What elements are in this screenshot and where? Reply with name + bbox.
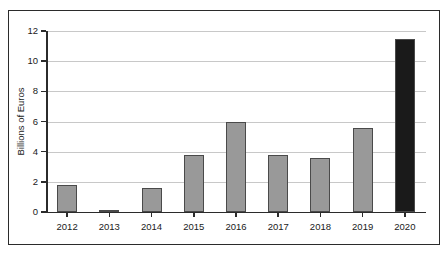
gridline — [46, 61, 426, 62]
x-tick-mark — [109, 212, 111, 217]
x-tick-mark — [235, 212, 237, 217]
x-tick-mark — [151, 212, 153, 217]
x-tick-label-2020: 2020 — [384, 221, 426, 232]
bar-chart-figure: 024681012 201220132014201520162017201820… — [0, 0, 448, 255]
y-tick-mark — [41, 211, 46, 213]
x-tick-label-2016: 2016 — [215, 221, 257, 232]
x-tick-label-2019: 2019 — [342, 221, 384, 232]
y-tick-mark — [41, 60, 46, 62]
x-tick-mark — [362, 212, 364, 217]
x-tick-mark — [66, 212, 68, 217]
bar-2016 — [226, 122, 246, 213]
x-tick-label-2013: 2013 — [88, 221, 130, 232]
y-tick-mark — [41, 151, 46, 153]
x-tick-mark — [193, 212, 195, 217]
bar-2020 — [395, 39, 415, 212]
bar-2015 — [184, 155, 204, 212]
y-axis-label: Billions of Euros — [14, 31, 28, 212]
y-axis-spine — [46, 31, 48, 212]
x-tick-mark — [404, 212, 406, 217]
plot-area — [46, 31, 426, 212]
bar-2017 — [268, 155, 288, 212]
x-tick-mark — [320, 212, 322, 217]
bar-2018 — [310, 158, 330, 212]
x-tick-label-2015: 2015 — [173, 221, 215, 232]
x-tick-label-2014: 2014 — [130, 221, 172, 232]
y-tick-mark — [41, 181, 46, 183]
gridline — [46, 91, 426, 92]
bar-2019 — [353, 128, 373, 212]
y-tick-mark — [41, 91, 46, 93]
bar-2012 — [57, 185, 77, 212]
x-tick-label-2012: 2012 — [46, 221, 88, 232]
gridline — [46, 31, 426, 32]
x-tick-mark — [277, 212, 279, 217]
y-tick-mark — [41, 121, 46, 123]
y-tick-mark — [41, 30, 46, 32]
bar-2014 — [142, 188, 162, 212]
x-tick-label-2017: 2017 — [257, 221, 299, 232]
x-tick-label-2018: 2018 — [299, 221, 341, 232]
